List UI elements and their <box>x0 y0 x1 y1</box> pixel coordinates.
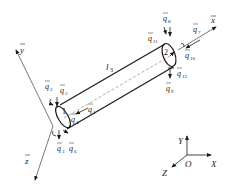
dof-label-q5: q5 <box>60 85 68 96</box>
dof-label-q8: q8 <box>163 13 171 24</box>
dof-label-q7: q7 <box>193 24 201 35</box>
svg-text:9: 9 <box>171 89 174 94</box>
svg-text:q: q <box>185 51 189 60</box>
svg-text:10: 10 <box>190 56 196 61</box>
element-label-sub: 3 <box>110 67 113 73</box>
global-x-label: X <box>210 159 217 169</box>
svg-text:q: q <box>60 86 64 95</box>
global-y-label: Y <box>178 136 184 146</box>
svg-text:q: q <box>88 105 92 114</box>
dof-label-q3: q3 <box>57 143 65 154</box>
svg-text:3: 3 <box>62 149 65 154</box>
dof-label-q11: q11 <box>148 33 158 44</box>
beam-element-diagram: y z x l 3 1 2 q1 q2 q3 q4 q5 q6 q7 q8 q9… <box>0 0 233 192</box>
dof-label-q2: q2 <box>45 81 53 92</box>
global-origin-label: O <box>185 159 192 169</box>
dof-label-q10: q10 <box>185 50 196 61</box>
dof-label-q9: q9 <box>166 83 174 94</box>
svg-text:q: q <box>177 69 181 78</box>
dof-label-q1: q1 <box>88 104 96 115</box>
svg-text:q: q <box>148 34 152 43</box>
local-y-label: y <box>19 45 24 55</box>
svg-text:6: 6 <box>74 149 77 154</box>
node-2-label: 2 <box>164 48 168 57</box>
svg-text:q: q <box>163 14 167 23</box>
svg-text:7: 7 <box>198 30 201 35</box>
svg-text:8: 8 <box>168 19 171 24</box>
svg-text:12: 12 <box>182 74 188 79</box>
svg-text:q: q <box>57 144 61 153</box>
svg-text:q: q <box>69 144 73 153</box>
global-z-label: Z <box>162 168 168 178</box>
svg-text:5: 5 <box>65 91 68 96</box>
dof-label-q4: q4 <box>71 114 79 125</box>
svg-text:q: q <box>45 82 49 91</box>
svg-text:q: q <box>166 84 170 93</box>
svg-text:11: 11 <box>153 39 158 44</box>
svg-text:q: q <box>71 115 75 124</box>
local-z-label: z <box>24 156 29 166</box>
dof-label-q6: q6 <box>69 143 77 154</box>
dof-label-q12: q12 <box>177 68 188 79</box>
svg-text:2: 2 <box>50 87 53 92</box>
element-label: l <box>106 62 109 72</box>
node-1-label: 1 <box>62 107 66 116</box>
local-z-axis <box>35 126 53 180</box>
local-x-label: x <box>210 15 215 25</box>
svg-text:q: q <box>193 25 197 34</box>
